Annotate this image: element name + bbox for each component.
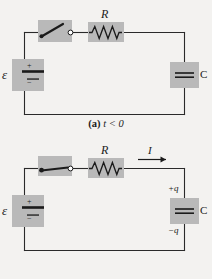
circuit-panel-a: R C ε + − (a) t < 0 (0, 0, 212, 139)
battery-minus-sign-b: − (27, 215, 32, 223)
caption-a-text: t < 0 (103, 118, 124, 129)
battery-plus-sign-b: + (27, 198, 32, 206)
capacitor-label-a: C (200, 69, 207, 80)
capacitor-box (170, 62, 199, 88)
current-label-b: I (148, 145, 152, 156)
resistor-label-a: R (101, 8, 109, 20)
rc-circuit-figure: R C ε + − (a) t < 0 (0, 0, 212, 279)
capacitor-label-b: C (200, 205, 207, 216)
circuit-diagram-b (0, 140, 212, 279)
battery-plus-sign-a: + (27, 62, 32, 70)
switch-closed-contact (68, 166, 73, 171)
switch-box-b (38, 156, 72, 176)
charge-negative-label: −q (168, 226, 179, 235)
emf-label-b: ε (2, 204, 7, 217)
switch-box (38, 20, 72, 42)
emf-label-a: ε (2, 68, 7, 81)
resistor-label-b: R (101, 144, 109, 156)
charge-positive-label: +q (168, 184, 179, 193)
battery-minus-sign-a: − (27, 79, 32, 87)
capacitor-box-b (170, 198, 199, 224)
circuit-panel-b: R I C ε + − +q −q (b) t > 0 (0, 140, 212, 279)
current-arrow (138, 157, 166, 163)
caption-a-prefix: (a) (88, 118, 100, 129)
switch-pivot-dot (40, 34, 44, 38)
switch-open-contact (68, 30, 73, 35)
caption-a: (a) t < 0 (0, 118, 212, 129)
switch-pivot-dot-b (39, 168, 44, 173)
